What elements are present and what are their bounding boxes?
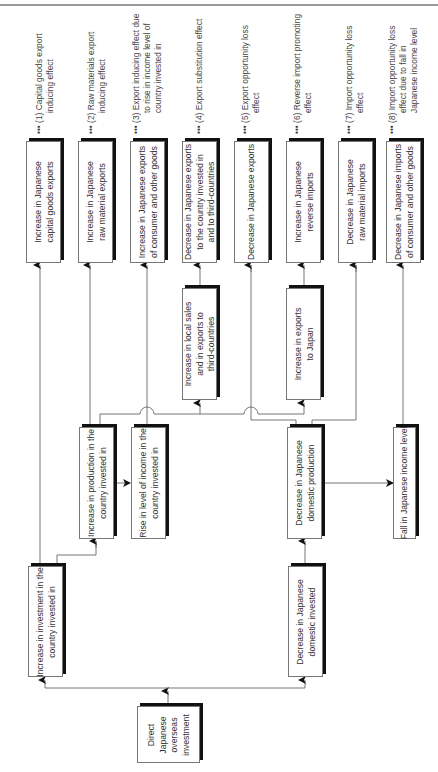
income-rise-text: Rise in level of income in the country i… (137, 428, 160, 537)
domestic-invested-box: Decrease in Japanese domestic invested (288, 566, 323, 677)
outcome-text: Increase in Japanese raw material export… (84, 161, 107, 243)
domestic-production-box: Decrease in Japanese domestic production (287, 427, 322, 539)
outcome-text: Increase in Japanese exports of consumer… (136, 146, 159, 258)
root-investment-text: Direct Japanese overseas investment (146, 714, 192, 756)
effect-label-4: ••• (4) Export substitution effect (194, 19, 205, 134)
production-increase-box: Increase in production in the country in… (79, 427, 114, 539)
effect-label-5: ••• (5) Export opportunity loss effect (240, 25, 262, 134)
outcome-text: Decrease in Japanese imports of consumer… (392, 144, 415, 260)
investment-increase-box: Increase in investment in the country in… (28, 566, 63, 677)
domestic-invested-text: Decrease in Japanese domestic invested (294, 579, 317, 665)
exports-japan-text: Increase in exports to Japan (292, 308, 315, 381)
outcome-text: Decrease in Japanese raw material import… (344, 159, 367, 245)
effect-label-7: ••• (7) Import opportunity loss effect (344, 26, 366, 134)
outcome-text: Decrease in Japanese exports (246, 144, 258, 260)
local-sales-text: Increase in local sales and in exports t… (182, 302, 217, 387)
outcome-box-8: Decrease in Japanese imports of consumer… (386, 141, 421, 263)
exports-japan-box: Increase in exports to Japan (286, 288, 321, 400)
income-fall-box: Fall in Japanese income level (393, 427, 416, 539)
root-investment-box: Direct Japanese overseas investment (137, 706, 200, 763)
outcome-text: Decrease in Japanese exports to the coun… (182, 144, 217, 260)
effect-label-2: ••• (2) Raw materials export inducing ef… (86, 32, 108, 134)
domestic-production-text: Decrease in Japanese domestic production (293, 440, 316, 526)
effect-label-1: ••• (1) Capital goods export inducing ef… (34, 33, 56, 134)
outcome-text: Increase in Japanese capital goods expor… (32, 161, 55, 243)
outcome-box-7: Decrease in Japanese raw material import… (338, 141, 373, 263)
income-rise-box: Rise in level of income in the country i… (131, 427, 166, 539)
effect-label-8: ••• (8) Import opportunity loss effect d… (387, 26, 420, 134)
outcome-text: Increase in Japanese reverse imports (292, 161, 315, 243)
effect-label-3: ••• (3) Export inducing effect due to ri… (131, 14, 164, 134)
outcome-box-5: Decrease in Japanese exports (234, 141, 269, 263)
production-increase-text: Increase in production in the country in… (85, 429, 108, 537)
outcome-box-2: Increase in Japanese raw material export… (78, 141, 113, 263)
outcome-box-4: Decrease in Japanese exports to the coun… (182, 141, 217, 263)
outcome-box-3: Increase in Japanese exports of consumer… (130, 141, 165, 263)
local-sales-box: Increase in local sales and in exports t… (182, 288, 217, 400)
investment-increase-text: Increase in investment in the country in… (34, 567, 57, 676)
outcome-box-1: Increase in Japanese capital goods expor… (26, 141, 61, 263)
effect-label-6: ••• (6) Reverse import promoting effect (292, 14, 314, 134)
income-fall-text: Fall in Japanese income level (399, 427, 411, 540)
connector-lines (0, 0, 438, 772)
outcome-box-6: Increase in Japanese reverse imports (286, 141, 321, 263)
